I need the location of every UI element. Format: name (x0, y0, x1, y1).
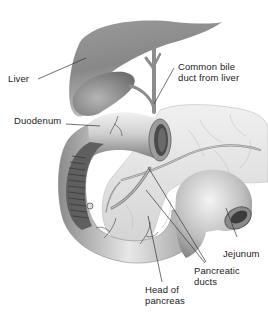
label-head-of-pancreas-line2: pancreas (145, 295, 185, 306)
label-liver: Liver (8, 73, 29, 84)
label-common-bile-duct-line2: duct from liver (178, 72, 239, 83)
label-duodenum: Duodenum (14, 115, 61, 126)
label-pancreatic-ducts: Pancreatic ducts (194, 265, 240, 287)
anatomy-diagram: Liver Common bile duct from liver Duoden… (0, 0, 268, 323)
jejunum (175, 170, 255, 258)
label-pancreatic-ducts-line2: ducts (194, 276, 240, 287)
label-jejunum: Jejunum (223, 248, 260, 259)
leader-bile-duct (154, 68, 174, 104)
label-head-of-pancreas: Head of pancreas (145, 284, 185, 306)
label-pancreatic-ducts-line1: Pancreatic (194, 265, 240, 276)
duodenal-papilla (87, 203, 93, 209)
label-common-bile-duct: Common bile duct from liver (178, 61, 239, 83)
label-head-of-pancreas-line1: Head of (145, 284, 185, 295)
label-common-bile-duct-line1: Common bile (178, 61, 239, 72)
